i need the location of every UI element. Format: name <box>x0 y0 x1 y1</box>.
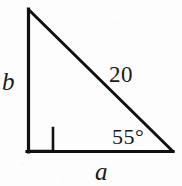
triangle-drawing <box>0 0 182 186</box>
hypotenuse-label: 20 <box>109 63 133 86</box>
triangle-figure: b a 20 55° <box>0 0 182 186</box>
side-a-label: a <box>95 159 108 184</box>
side-b-label: b <box>2 69 15 94</box>
right-angle-marker-icon <box>29 128 53 151</box>
hypotenuse-line <box>29 10 174 152</box>
angle-label: 55° <box>112 126 144 148</box>
